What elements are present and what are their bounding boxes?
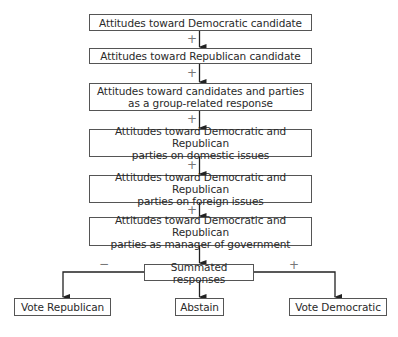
plus-sign: + (187, 67, 197, 79)
summated-responses-box: Summated responses (144, 264, 254, 281)
step-domestic-issues: Attitudes toward Democratic and Republic… (89, 129, 312, 157)
outcome-label: Vote Republican (21, 301, 104, 313)
step-label-line-2: parties on domestic issues (90, 149, 311, 161)
summation-label: Summated responses (145, 261, 253, 285)
step-label-line-2: as a group-related response (97, 97, 304, 109)
plus-sign: + (187, 113, 197, 125)
step-republican-candidate: Attitudes toward Republican candidate (89, 48, 312, 64)
outcome-vote-democratic: Vote Democratic (289, 298, 387, 316)
outcome-vote-republican: Vote Republican (14, 298, 111, 316)
plus-sign: + (289, 259, 299, 271)
step-democratic-candidate: Attitudes toward Democratic candidate (89, 14, 312, 31)
step-manager-of-government: Attitudes toward Democratic and Republic… (89, 217, 312, 246)
step-label-line-1: Attitudes toward Democratic and Republic… (90, 214, 311, 238)
step-label-line-1: Attitudes toward Democratic and Republic… (90, 125, 311, 149)
step-label-line-2: parties on foreign issues (90, 195, 311, 207)
step-label-line-2: parties as manager of government (90, 238, 311, 250)
plus-sign: + (187, 33, 197, 45)
minus-sign: − (99, 258, 109, 270)
outcome-label: Abstain (180, 301, 219, 313)
step-label: Attitudes toward Republican candidate (100, 50, 300, 62)
step-label-line-1: Attitudes toward Democratic and Republic… (90, 171, 311, 195)
plus-sign: + (187, 159, 197, 171)
step-foreign-issues: Attitudes toward Democratic and Republic… (89, 175, 312, 203)
step-label-line-1: Attitudes toward candidates and parties (97, 85, 304, 97)
outcome-abstain: Abstain (175, 298, 224, 316)
step-group-related-response: Attitudes toward candidates and parties … (89, 83, 312, 111)
outcome-label: Vote Democratic (295, 301, 381, 313)
step-label: Attitudes toward Democratic candidate (99, 17, 302, 29)
